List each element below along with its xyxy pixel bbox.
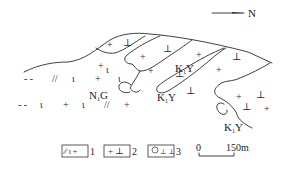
scale-end-label: 150m bbox=[226, 142, 249, 153]
svg-text:ι: ι bbox=[106, 64, 109, 75]
svg-text:+: + bbox=[124, 99, 130, 110]
svg-text:+: + bbox=[107, 39, 113, 50]
scale-start-label: 0 bbox=[196, 142, 201, 153]
svg-text:ι: ι bbox=[82, 99, 85, 110]
svg-text:+: + bbox=[95, 73, 101, 84]
unit-label-k1y-2: K1Y bbox=[157, 91, 176, 104]
svg-text:⊥: ⊥ bbox=[163, 43, 172, 54]
legend-item-1: ∕∕ ι + 1 bbox=[62, 145, 95, 157]
svg-text:ι: ι bbox=[118, 73, 121, 84]
legend-number-2: 2 bbox=[132, 146, 137, 157]
svg-text:+: + bbox=[196, 49, 202, 60]
inclusion-circle-icon bbox=[152, 147, 158, 153]
unit-label-k1y-3: K1Y bbox=[224, 121, 243, 134]
legend-symbols-1: ∕∕ ι + bbox=[62, 147, 78, 156]
scale-bar-line bbox=[199, 153, 234, 156]
svg-text:+: + bbox=[98, 60, 104, 71]
north-arrow: N bbox=[212, 7, 256, 19]
svg-text:- -: - - bbox=[24, 73, 33, 84]
contact-line-4 bbox=[119, 71, 140, 93]
svg-text:+: + bbox=[140, 51, 146, 62]
legend-item-3: ⊥ ⊥ 3 bbox=[148, 145, 181, 157]
svg-text://: // bbox=[52, 73, 58, 84]
geological-map: N - - // ι + ι - - ι + ι // + ι + + ⊥ + … bbox=[0, 0, 288, 172]
svg-text:+: + bbox=[264, 103, 270, 114]
scale-bar: 0 150m bbox=[196, 142, 249, 156]
svg-text:+: + bbox=[216, 64, 222, 75]
svg-text:⊥: ⊥ bbox=[232, 51, 241, 62]
svg-text:ι: ι bbox=[72, 73, 75, 84]
svg-text:⊥ ⊥: ⊥ ⊥ bbox=[160, 148, 175, 156]
svg-text:- -: - - bbox=[18, 99, 27, 110]
unit-label-n1g: N1G bbox=[89, 89, 108, 102]
inclusion-outline bbox=[217, 103, 227, 115]
legend-number-3: 3 bbox=[176, 146, 181, 157]
unit-label-k1y-1: K1Y bbox=[175, 62, 194, 75]
svg-text:⊥: ⊥ bbox=[242, 101, 251, 112]
legend-symbols-2: + ⊥ bbox=[108, 146, 124, 156]
svg-text:⊥: ⊥ bbox=[256, 89, 265, 100]
north-label: N bbox=[248, 7, 256, 19]
svg-text:+: + bbox=[63, 99, 69, 110]
legend-number-1: 1 bbox=[90, 146, 95, 157]
legend: ∕∕ ι + 1 + ⊥ 2 ⊥ ⊥ 3 bbox=[62, 145, 181, 157]
legend-item-2: + ⊥ 2 bbox=[104, 145, 137, 157]
svg-text:+: + bbox=[148, 65, 154, 76]
svg-text:ι: ι bbox=[40, 99, 43, 110]
svg-text:⊥: ⊥ bbox=[186, 85, 195, 96]
svg-text:⊥: ⊥ bbox=[123, 37, 132, 48]
